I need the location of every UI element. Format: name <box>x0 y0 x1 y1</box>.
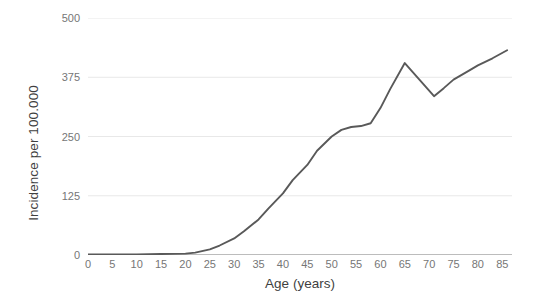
plot-svg <box>88 18 512 255</box>
line-chart: Incidence per 100.000 0125250375500 0510… <box>0 0 551 306</box>
x-axis-tick-label: 85 <box>487 258 517 270</box>
y-axis-tick-label: 375 <box>40 71 80 83</box>
data-series-group <box>88 50 507 254</box>
gridlines <box>88 18 512 255</box>
y-axis-tick-label: 250 <box>40 131 80 143</box>
y-axis-tick-label: 125 <box>40 190 80 202</box>
x-axis-title: Age (years) <box>88 276 512 291</box>
series-line <box>88 50 507 254</box>
plot-area <box>88 18 512 255</box>
y-axis-tick-label: 500 <box>40 12 80 24</box>
